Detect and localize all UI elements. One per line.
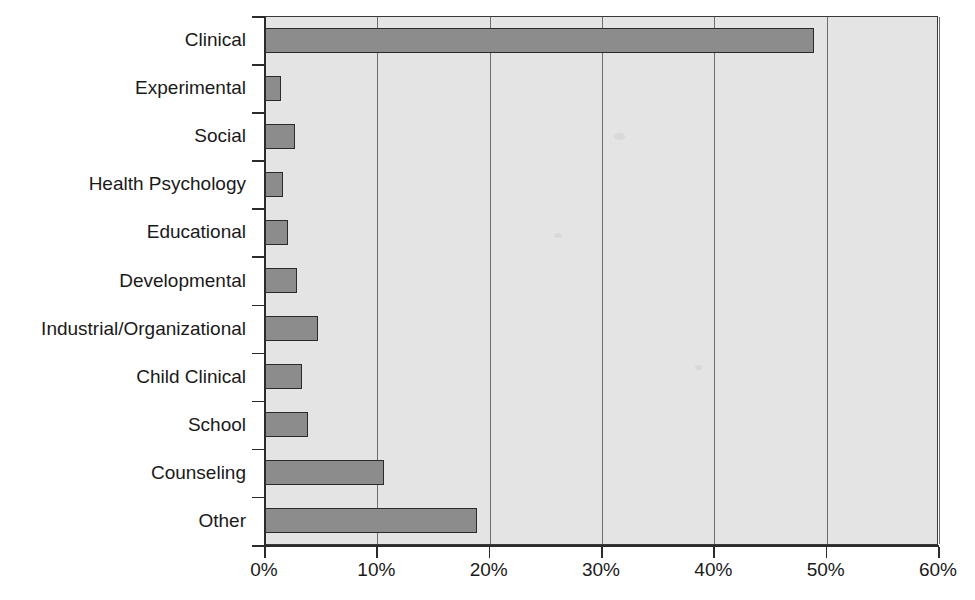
y-axis-tick — [252, 353, 264, 355]
bar-row — [264, 172, 938, 197]
x-axis-ticks — [0, 547, 975, 559]
x-axis-tick — [489, 547, 491, 558]
value-axis-tick-label: 30% — [582, 560, 620, 579]
y-axis-tick — [252, 160, 264, 162]
x-axis-tick — [938, 547, 940, 558]
bar-row — [264, 220, 938, 245]
bar-row — [264, 268, 938, 293]
bar-row — [264, 76, 938, 101]
y-axis-tick — [252, 256, 264, 258]
bars-layer — [264, 16, 938, 545]
x-axis-tick — [264, 547, 266, 558]
bar — [264, 364, 302, 389]
category-label: Clinical — [185, 30, 246, 49]
bar-row — [264, 364, 938, 389]
category-label: Counseling — [151, 463, 246, 482]
bar — [264, 124, 295, 149]
value-axis-tick-label: 20% — [470, 560, 508, 579]
category-label: Experimental — [135, 78, 246, 97]
bar-row — [264, 460, 938, 485]
bar — [264, 76, 281, 101]
y-axis-tick — [252, 305, 264, 307]
bar-row — [264, 28, 938, 53]
bar — [264, 220, 288, 245]
bar — [264, 28, 814, 53]
bar — [264, 460, 384, 485]
value-axis-tick-label: 50% — [807, 560, 845, 579]
y-axis-tick — [252, 208, 264, 210]
y-axis-tick — [252, 112, 264, 114]
y-axis-line — [264, 16, 266, 547]
bar-row — [264, 124, 938, 149]
category-axis-labels: ClinicalExperimentalSocialHealth Psychol… — [0, 16, 246, 545]
value-axis-tick-label: 10% — [357, 560, 395, 579]
x-axis-tick — [713, 547, 715, 558]
y-axis-tick — [252, 16, 264, 18]
bar-row — [264, 316, 938, 341]
category-label: Industrial/Organizational — [41, 319, 246, 338]
value-axis-tick-label: 0% — [250, 560, 277, 579]
bar-row — [264, 508, 938, 533]
value-axis-tick-label: 40% — [694, 560, 732, 579]
gridline-60 — [939, 17, 940, 544]
value-axis-tick-label: 60% — [919, 560, 957, 579]
x-axis-tick — [826, 547, 828, 558]
bar — [264, 172, 283, 197]
category-label: Educational — [147, 222, 246, 241]
category-label: Social — [194, 126, 246, 145]
bar — [264, 508, 477, 533]
y-axis-tick — [252, 497, 264, 499]
value-axis-labels: 0%10%20%30%40%50%60% — [0, 560, 975, 592]
y-axis-tick — [252, 401, 264, 403]
bar — [264, 412, 308, 437]
y-axis-tick — [252, 64, 264, 66]
category-label: Developmental — [119, 271, 246, 290]
category-label: Other — [198, 511, 246, 530]
y-axis-ticks — [252, 16, 264, 545]
category-label: School — [188, 415, 246, 434]
x-axis-tick — [601, 547, 603, 558]
category-label: Health Psychology — [89, 174, 246, 193]
bar — [264, 268, 297, 293]
bar-chart: ClinicalExperimentalSocialHealth Psychol… — [0, 0, 975, 600]
x-axis-tick — [376, 547, 378, 558]
bar — [264, 316, 318, 341]
bar-row — [264, 412, 938, 437]
category-label: Child Clinical — [136, 367, 246, 386]
y-axis-tick — [252, 449, 264, 451]
